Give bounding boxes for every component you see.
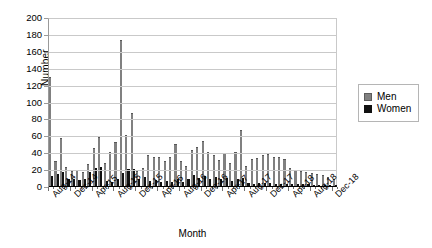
- gridline: [49, 52, 336, 53]
- gridline: [49, 18, 336, 19]
- y-tick-mark: [44, 52, 48, 53]
- x-axis-labels: Aug-14Dec-14Apr-15Aug-15Dec-15Apr-16Aug-…: [0, 190, 432, 230]
- gridline: [49, 153, 336, 154]
- bar-chart: Number 020406080100120140160180200 Aug-1…: [0, 0, 432, 248]
- y-tick-mark: [44, 153, 48, 154]
- legend-swatch-women: [364, 105, 372, 113]
- y-tick-label: 80: [2, 114, 42, 124]
- y-tick-label: 140: [2, 64, 42, 74]
- y-tick-mark: [44, 18, 48, 19]
- gridline: [49, 103, 336, 104]
- y-tick-label: 180: [2, 30, 42, 40]
- legend-item-women: Women: [364, 104, 411, 114]
- legend-item-men: Men: [364, 92, 411, 102]
- gridline: [49, 35, 336, 36]
- chart-legend: Men Women: [358, 84, 419, 122]
- legend-swatch-men: [364, 93, 372, 101]
- y-tick-label: 160: [2, 47, 42, 57]
- y-tick-mark: [44, 86, 48, 87]
- y-tick-mark: [44, 119, 48, 120]
- y-tick-mark: [44, 35, 48, 36]
- y-tick-mark: [44, 136, 48, 137]
- y-tick-label: 100: [2, 98, 42, 108]
- y-tick-mark: [44, 170, 48, 171]
- y-tick-label: 40: [2, 148, 42, 158]
- y-tick-label: 60: [2, 131, 42, 141]
- x-axis-title: Month: [48, 228, 337, 239]
- gridline: [49, 136, 336, 137]
- bar-men: [120, 40, 122, 187]
- gridline: [49, 69, 336, 70]
- y-tick-label: 20: [2, 165, 42, 175]
- y-tick-label: 200: [2, 13, 42, 23]
- y-tick-mark: [44, 103, 48, 104]
- gridline: [49, 119, 336, 120]
- y-tick-mark: [44, 69, 48, 70]
- gridline: [49, 86, 336, 87]
- legend-label-women: Women: [377, 104, 411, 114]
- plot-area: [48, 18, 337, 187]
- legend-label-men: Men: [377, 92, 396, 102]
- bar-men: [273, 157, 275, 187]
- y-tick-label: 120: [2, 81, 42, 91]
